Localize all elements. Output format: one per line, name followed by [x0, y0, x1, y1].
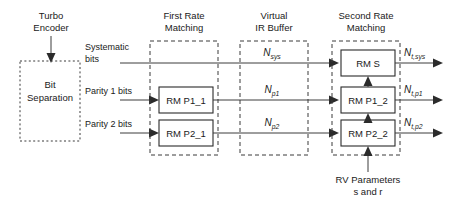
first-rate-matching-title-line2: Matching [165, 22, 204, 33]
bit-separation-group: Bit Separation [20, 61, 80, 141]
rv-parameters-arrow [364, 146, 373, 172]
turbo-encoder-title-line2: Encoder [33, 22, 68, 33]
svg-text:Nt,sys: Nt,sys [404, 47, 426, 61]
parity1-signal-path-to-buffer [213, 96, 339, 105]
output-label-n-t-p1: Nt,p1 [404, 84, 423, 98]
rv-chain-arrow-p1-to-s [364, 76, 373, 87]
header-first-rate-matching: First Rate Matching [163, 10, 204, 33]
buffer-label-n-p1: Np1 [265, 84, 280, 98]
rv-parameters-label: RV Parameters s and r [336, 174, 401, 197]
output-label-n-t-p2: Nt,p2 [404, 117, 423, 131]
output-path-p2 [395, 129, 443, 138]
rv-parameters-line1: RV Parameters [336, 174, 401, 185]
svg-text:Nt,p1: Nt,p1 [404, 84, 423, 98]
parity1-signal-path-stage1 [120, 96, 159, 105]
output-label-n-t-p2-sub: t,p2 [411, 123, 423, 131]
signal-label-parity2: Parity 2 bits [85, 119, 133, 129]
diagram-canvas: Turbo Encoder First Rate Matching Virtua… [0, 0, 454, 201]
block-rm-p2-2-label: RM P2_2 [348, 128, 388, 139]
buffer-label-n-sys-sub: sys [271, 53, 282, 61]
header-turbo-encoder: Turbo Encoder [33, 10, 68, 33]
signal-label-parity1: Parity 1 bits [85, 86, 133, 96]
buffer-label-n-p2: Np2 [265, 117, 280, 131]
turbo-encoder-title-line1: Turbo [39, 10, 63, 21]
block-rm-p1-2[interactable]: RM P1_2 [341, 87, 395, 113]
second-rate-matching-title-line1: Second Rate [339, 10, 394, 21]
block-rm-s[interactable]: RM S [341, 50, 395, 76]
second-rate-matching-title-line2: Matching [347, 22, 386, 33]
svg-text:Np2: Np2 [265, 117, 280, 131]
rate-matching-diagram: Turbo Encoder First Rate Matching Virtua… [0, 0, 454, 201]
virtual-ir-buffer-title-line2: IR Buffer [255, 22, 292, 33]
block-rm-s-label: RM S [356, 58, 380, 69]
buffer-label-n-p2-sub: p2 [271, 123, 280, 131]
header-virtual-ir-buffer: Virtual IR Buffer [255, 10, 292, 33]
bit-separation-label-line2: Separation [27, 92, 73, 103]
systematic-bits-label-line2: bits [85, 54, 100, 64]
first-rate-matching-title-line1: First Rate [163, 10, 204, 21]
block-rm-p2-1-label: RM P2_1 [166, 128, 206, 139]
block-rm-p2-1[interactable]: RM P2_1 [159, 120, 213, 146]
buffer-label-n-sys: Nsys [263, 47, 281, 61]
svg-text:Nsys: Nsys [263, 47, 281, 61]
virtual-ir-buffer-title-line1: Virtual [261, 10, 288, 21]
block-rm-p1-2-label: RM P1_2 [348, 95, 388, 106]
buffer-label-n-p1-sub: p1 [271, 90, 280, 98]
svg-text:Np1: Np1 [265, 84, 280, 98]
systematic-bits-label-line1: Systematic [85, 42, 130, 52]
systematic-signal-path [120, 59, 339, 68]
rv-chain-arrow-p2-to-p1 [364, 113, 373, 123]
parity1-bits-label: Parity 1 bits [85, 86, 133, 96]
output-label-n-t-p1-sub: t,p1 [411, 90, 423, 98]
parity2-bits-label: Parity 2 bits [85, 119, 133, 129]
signal-label-systematic: Systematic bits [85, 42, 130, 64]
bit-separation-label-line1: Bit [44, 79, 55, 90]
parity2-signal-path-stage1 [120, 129, 159, 138]
output-label-n-t-sys: Nt,sys [404, 47, 426, 61]
block-rm-p1-1-label: RM P1_1 [166, 95, 206, 106]
block-rm-p2-2[interactable]: RM P2_2 [341, 120, 395, 146]
turbo-encoder-arrow [47, 36, 56, 63]
block-rm-p1-1[interactable]: RM P1_1 [159, 87, 213, 113]
parity2-signal-path-to-buffer [213, 129, 339, 138]
output-path-p1 [395, 96, 443, 105]
output-path-sys [395, 59, 443, 68]
output-label-n-t-sys-sub: t,sys [411, 53, 426, 61]
rv-parameters-line2: s and r [353, 186, 382, 197]
header-second-rate-matching: Second Rate Matching [339, 10, 394, 33]
svg-text:Nt,p2: Nt,p2 [404, 117, 423, 131]
